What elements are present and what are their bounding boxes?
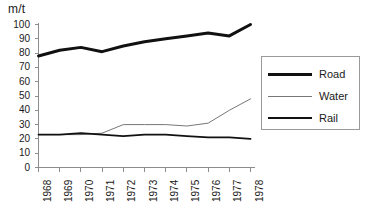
x-tick-label: 1969 <box>64 179 74 201</box>
y-tick-label: 80 <box>4 48 30 58</box>
x-tick-label: 1973 <box>149 179 159 201</box>
series-lines <box>39 25 251 139</box>
x-tick-label: 1971 <box>106 179 116 201</box>
legend-item-rail[interactable]: Rail <box>262 111 361 125</box>
series-line-road <box>39 25 251 56</box>
x-tick-label: 1968 <box>43 179 53 201</box>
legend-item-water[interactable]: Water <box>262 89 361 103</box>
x-tick-label: 1974 <box>170 179 180 201</box>
y-tick-label: 10 <box>4 148 30 158</box>
legend-swatch-water-icon <box>268 96 312 97</box>
series-line-water <box>39 99 251 135</box>
legend-swatch-road-icon <box>268 73 312 76</box>
y-tick-label: 0 <box>4 163 30 173</box>
legend-swatch-rail-icon <box>268 117 312 119</box>
x-tick-label: 1977 <box>233 179 243 201</box>
y-tick-label: 100 <box>4 20 30 30</box>
x-tick-label: 1972 <box>127 179 137 201</box>
axis-ticks <box>35 25 251 172</box>
legend-label: Rail <box>319 113 338 124</box>
y-tick-label: 70 <box>4 62 30 72</box>
y-tick-label: 20 <box>4 134 30 144</box>
y-tick-label: 90 <box>4 34 30 44</box>
x-tick-label: 1970 <box>85 179 95 201</box>
x-tick-label: 1975 <box>191 179 201 201</box>
legend-label: Water <box>319 91 348 102</box>
legend-item-road[interactable]: Road <box>262 67 361 81</box>
y-tick-label: 50 <box>4 91 30 101</box>
y-tick-label: 40 <box>4 105 30 115</box>
y-tick-label: 60 <box>4 77 30 87</box>
x-tick-label: 1976 <box>212 179 222 201</box>
axis-lines <box>39 23 255 168</box>
x-tick-label: 1978 <box>255 179 265 201</box>
y-tick-label: 30 <box>4 120 30 130</box>
legend-label: Road <box>319 69 345 80</box>
legend: RoadWaterRail <box>261 56 360 130</box>
chart-container: m/t 0102030405060708090100 1968196919701… <box>0 0 366 206</box>
series-line-rail <box>39 133 251 139</box>
